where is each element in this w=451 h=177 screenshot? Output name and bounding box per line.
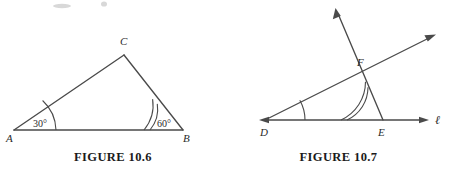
ray-df-arrowhead [424,35,436,42]
triangle-side-ac [14,55,124,130]
figure-sheet: A B C 30° 60° FIGURE 10.6 [0,0,451,177]
figure-10-6-panel: A B C 30° 60° FIGURE 10.6 [0,0,226,177]
ray-ef-transversal [339,16,383,120]
vertex-label-d: D [259,126,268,138]
line-l-left-arrowhead [259,117,269,123]
angle-arc-b-outer [144,99,153,130]
triangle-side-cb [124,55,183,130]
line-label-l: ℓ [435,113,440,127]
vertex-label-b: B [183,132,190,144]
vertex-label-e: E [377,126,385,138]
vertex-label-c: C [120,35,128,47]
angle-arc-d [300,100,305,120]
angle-arc-e-inner [347,87,368,120]
scan-speck [101,1,107,6]
line-l-right-arrowhead [419,117,429,123]
figure-10-7-caption: FIGURE 10.7 [226,150,451,165]
angle-label-b: 60° [157,118,171,129]
figure-10-7-drawing: D E F ℓ [226,0,451,150]
figure-10-6-drawing: A B C 30° 60° [0,0,226,150]
angle-label-a: 30° [33,118,47,129]
vertex-label-a: A [5,132,13,144]
scan-speck [53,4,71,8]
figure-10-6-caption: FIGURE 10.6 [0,150,226,165]
ray-df [265,38,429,120]
vertex-label-f: F [356,56,364,68]
angle-arc-e-outer [341,82,366,120]
figure-10-7-panel: D E F ℓ FIGURE 10.7 [226,0,451,177]
